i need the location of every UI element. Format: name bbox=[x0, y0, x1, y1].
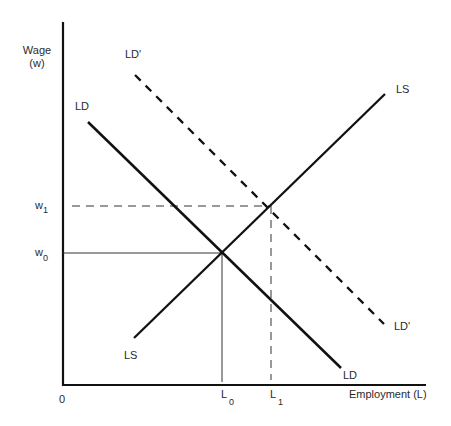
y-axis-label-line1: Wage bbox=[23, 44, 51, 56]
ld-prime-label-top: LD' bbox=[125, 48, 141, 60]
svg-text:0: 0 bbox=[229, 397, 234, 407]
ld-label-top: LD bbox=[75, 100, 89, 112]
svg-text:1: 1 bbox=[43, 205, 48, 215]
w1-tick-label: w 1 bbox=[34, 199, 48, 215]
labor-supply-curve bbox=[134, 94, 385, 338]
labor-market-diagram: Wage (w) Employment (L) 0 LD LD LS LS LD… bbox=[0, 0, 451, 426]
ls-label-bottom: LS bbox=[124, 349, 137, 361]
labor-demand-prime-curve bbox=[135, 75, 384, 324]
ld-prime-label-bottom: LD' bbox=[394, 320, 410, 332]
ld-label-bottom: LD bbox=[343, 369, 357, 381]
x-axis-label: Employment (L) bbox=[349, 388, 427, 400]
labor-demand-curve bbox=[88, 122, 341, 368]
w0-tick-label: w 0 bbox=[34, 246, 48, 263]
l1-tick-label: L 1 bbox=[270, 388, 283, 407]
svg-text:L: L bbox=[270, 388, 276, 400]
origin-label: 0 bbox=[59, 393, 65, 405]
svg-text:w: w bbox=[34, 199, 43, 211]
y-axis-label-line2: (w) bbox=[29, 57, 44, 69]
axes bbox=[62, 22, 426, 386]
svg-text:L: L bbox=[221, 388, 227, 400]
svg-text:1: 1 bbox=[278, 397, 283, 407]
ls-label-top: LS bbox=[396, 83, 409, 95]
l0-tick-label: L 0 bbox=[221, 388, 234, 407]
svg-text:0: 0 bbox=[43, 253, 48, 263]
svg-text:w: w bbox=[34, 246, 43, 258]
